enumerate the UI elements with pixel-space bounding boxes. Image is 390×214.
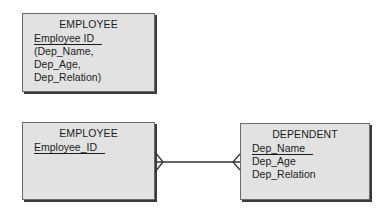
relationship-line xyxy=(0,0,390,214)
